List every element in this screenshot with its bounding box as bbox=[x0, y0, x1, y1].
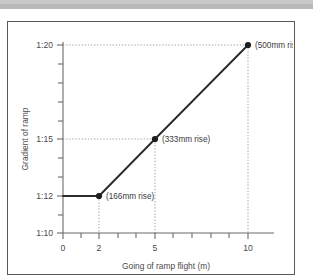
y-tick-label-1-20: 1:20 bbox=[36, 40, 53, 50]
page-background: 1:20 1:15 1:12 1:10 Gradient of ramp bbox=[0, 9, 313, 276]
x-axis-title: Going of ramp flight (m) bbox=[122, 261, 210, 271]
ramp-gradient-chart: 1:20 1:15 1:12 1:10 Gradient of ramp bbox=[8, 22, 293, 273]
horizontal-gridlines bbox=[63, 45, 248, 139]
y-tick-label-1-12: 1:12 bbox=[36, 191, 53, 201]
data-point-10-1-20 bbox=[245, 42, 251, 48]
figure-border-box: 1:20 1:15 1:12 1:10 Gradient of ramp bbox=[7, 21, 295, 275]
top-band-highlight bbox=[0, 0, 313, 4]
x-tick-label-0: 0 bbox=[61, 243, 66, 253]
top-gray-band bbox=[0, 0, 313, 9]
data-point-5-1-15 bbox=[152, 136, 158, 142]
x-tick-label-5: 5 bbox=[153, 243, 158, 253]
y-axis: 1:20 1:15 1:12 1:10 Gradient of ramp bbox=[20, 40, 63, 238]
y-axis-title: Gradient of ramp bbox=[20, 107, 30, 170]
data-annotations: (166mm rise) (333mm rise) (500mm rise) bbox=[106, 41, 293, 201]
annotation-500mm-rise: (500mm rise) bbox=[255, 41, 293, 50]
x-axis: 0 2 5 10 Going of ramp flight (m) bbox=[61, 233, 274, 271]
annotation-166mm-rise: (166mm rise) bbox=[106, 192, 154, 201]
x-tick-label-10: 10 bbox=[243, 243, 253, 253]
series-max-ramp-gradient bbox=[63, 42, 251, 199]
x-tick-label-2: 2 bbox=[97, 243, 102, 253]
data-point-2-1-12 bbox=[96, 193, 102, 199]
series-line-path bbox=[63, 45, 248, 196]
x-ticks bbox=[63, 233, 248, 239]
y-tick-label-1-10: 1:10 bbox=[36, 228, 53, 238]
y-tick-label-1-15: 1:15 bbox=[36, 134, 53, 144]
annotation-333mm-rise: (333mm rise) bbox=[162, 135, 210, 144]
